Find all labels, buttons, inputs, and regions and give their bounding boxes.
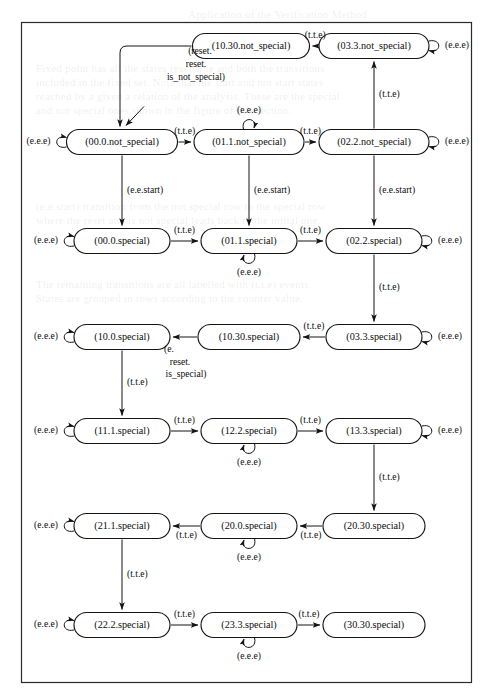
state-node-label: (01.1.special) (221, 235, 276, 247)
transition-label: (t.t.e) (127, 376, 148, 388)
transition-label: (t.t.e) (379, 281, 400, 293)
state-node[interactable]: (13.3.special) (326, 419, 422, 444)
self-loop-label: (e.e.e) (237, 650, 261, 662)
state-node-label: (00.0.special) (94, 235, 149, 247)
transition-label: (t.t.e) (305, 29, 326, 41)
state-node[interactable]: (10.30.special) (198, 325, 300, 350)
initial-state-marker-layer (126, 107, 144, 126)
transition-label: (e.e.start) (379, 184, 415, 196)
self-loop-edge (422, 236, 432, 246)
state-node-label: (20.30.special) (344, 520, 405, 532)
state-node[interactable]: (11.1.special) (74, 419, 170, 444)
transition-edge (120, 46, 192, 127)
node-layer: (10.30.not_special)(03.3.not_special)(00… (67, 34, 430, 638)
transition-label: (t.t.e) (174, 224, 195, 236)
self-loop-label: (e.e.e) (445, 39, 469, 51)
transition-label: (t.t.e) (304, 320, 325, 332)
state-node[interactable]: (12.2.special) (201, 419, 297, 444)
state-node[interactable]: (00.0.special) (74, 229, 170, 254)
self-loop-label: (e.e.e) (237, 456, 261, 468)
self-loop-label: (e.e.e) (438, 424, 462, 436)
transition-label: (t.t.e) (379, 88, 400, 100)
self-loop-label: (e.e.e) (237, 104, 261, 116)
state-node-label: (03.3.not_special) (337, 40, 411, 52)
state-node-label: (03.3.special) (346, 331, 401, 343)
transition-label-line: reset. (186, 58, 207, 69)
self-loop-label: (e.e.e) (27, 135, 51, 147)
state-node[interactable]: (00.0.not_special) (67, 130, 178, 155)
self-loop-label: (e.e.e) (438, 234, 462, 246)
state-node-label: (11.1.special) (94, 425, 149, 437)
state-node-label: (30.30.special) (344, 619, 405, 631)
figure-border (22, 23, 472, 683)
state-node-label: (00.0.not_special) (85, 136, 159, 148)
self-loop-label: (e.e.e) (34, 424, 58, 436)
state-node-label: (10.0.special) (94, 331, 149, 343)
transition-label: (e.e.start) (254, 184, 290, 196)
self-loop-label: (e.e.e) (237, 266, 261, 278)
state-node-label: (13.3.special) (346, 425, 401, 437)
self-loop-edge (243, 638, 255, 648)
state-node-label: (12.2.special) (221, 425, 276, 437)
transition-label: (e.e.start) (127, 184, 163, 196)
state-node[interactable]: (01.1.not_special) (194, 130, 304, 155)
state-node-label: (23.3.special) (221, 619, 276, 631)
state-node[interactable]: (21.1.special) (74, 514, 170, 539)
self-loop-edge (243, 444, 255, 454)
state-transition-diagram-canvas: (10.30.not_special)(03.3.not_special)(00… (0, 0, 493, 699)
state-node-label: (10.30.not_special) (212, 40, 291, 52)
self-loop-edge (64, 620, 74, 630)
transition-label: (t.t.e) (127, 568, 148, 580)
transition-label-line: reset. (170, 356, 191, 367)
self-loop-label: (e.e.e) (34, 618, 58, 630)
transition-label-line: is_not_special) (167, 71, 225, 83)
state-node-label: (10.30.special) (219, 331, 280, 343)
transition-label: (t.t.e) (174, 125, 195, 137)
state-node-label: (22.2.special) (94, 619, 149, 631)
self-loop-edge (429, 41, 439, 51)
state-node[interactable]: (01.1.special) (201, 229, 297, 254)
self-loop-edge (429, 137, 439, 147)
self-loop-label: (e.e.e) (445, 135, 469, 147)
self-loop-edge (57, 137, 67, 147)
self-loop-edge (243, 539, 255, 549)
transition-label: (t.t.e) (379, 471, 400, 483)
self-loop-label: (e.e.e) (34, 234, 58, 246)
state-node-label: (20.0.special) (221, 520, 276, 532)
state-node[interactable]: (03.3.special) (326, 325, 422, 350)
self-loop-edge (64, 521, 74, 531)
state-node-label: (02.2.special) (346, 235, 401, 247)
self-loop-edge (243, 254, 255, 264)
state-node[interactable]: (02.2.not_special) (319, 130, 429, 155)
state-node[interactable]: (20.0.special) (201, 514, 297, 539)
transition-label: (t.t.e) (174, 608, 195, 620)
initial-state-arrow (126, 107, 144, 126)
state-node[interactable]: (22.2.special) (74, 613, 170, 638)
transition-label-line: is_special) (165, 368, 206, 380)
self-loop-label: (e.e.e) (34, 330, 58, 342)
state-node[interactable]: (20.30.special) (323, 514, 425, 539)
transition-label: (t.t.e) (300, 224, 321, 236)
transition-label: (t.t.e) (300, 414, 321, 426)
state-node[interactable]: (23.3.special) (201, 613, 297, 638)
state-node[interactable]: (02.2.special) (326, 229, 422, 254)
self-loop-edge (64, 236, 74, 246)
transition-label-line: (reset. (188, 45, 212, 57)
state-node[interactable]: (30.30.special) (323, 613, 425, 638)
transition-label: (t.t.e) (174, 414, 195, 426)
self-loop-edge (64, 332, 74, 342)
state-diagram-figure: Application of the Verification MethodFi… (0, 0, 493, 699)
self-loop-edge (422, 426, 432, 436)
self-loop-edge (64, 426, 74, 436)
transition-label-line: (e. (164, 343, 174, 355)
transition-label: (t.t.e) (300, 125, 321, 137)
self-loop-label: (e.e.e) (34, 519, 58, 531)
state-node-label: (21.1.special) (94, 520, 149, 532)
state-node[interactable]: (03.3.not_special) (319, 34, 429, 59)
state-node[interactable]: (10.0.special) (74, 325, 170, 350)
self-loop-edge (243, 120, 255, 130)
state-node-label: (01.1.not_special) (212, 136, 286, 148)
self-loop-label: (e.e.e) (237, 551, 261, 563)
state-node-label: (02.2.not_special) (337, 136, 411, 148)
transition-label: (t.t.e) (176, 529, 197, 541)
